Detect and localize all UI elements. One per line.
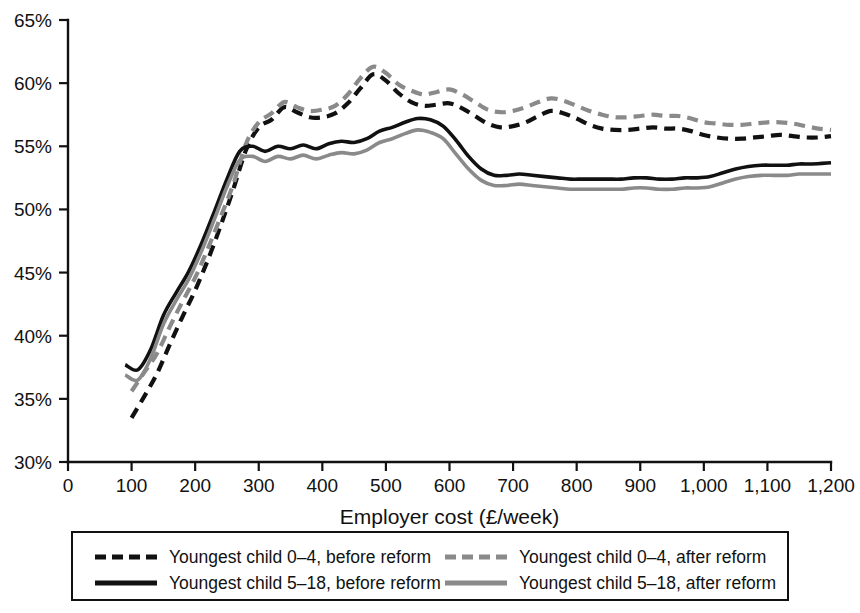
x-axis-title: Employer cost (£/week) <box>340 505 559 528</box>
legend-label: Youngest child 0–4, before reform <box>169 547 431 567</box>
axis-tick-marks <box>59 20 831 471</box>
legend-label: Youngest child 0–4, after reform <box>519 547 766 567</box>
x-tick-label: 1,200 <box>807 475 855 496</box>
data-series-group <box>125 67 831 418</box>
x-tick-label: 900 <box>624 475 656 496</box>
x-tick-label: 600 <box>434 475 466 496</box>
y-tick-label: 45% <box>14 263 52 284</box>
series-line-3 <box>125 118 831 370</box>
y-axis-tick-labels: 30%35%40%45%50%55%60%65% <box>14 10 52 473</box>
y-tick-label: 35% <box>14 389 52 410</box>
x-tick-label: 300 <box>243 475 275 496</box>
series-line-2 <box>132 67 831 392</box>
x-tick-label: 100 <box>116 475 148 496</box>
x-tick-label: 500 <box>370 475 402 496</box>
x-tick-label: 700 <box>497 475 529 496</box>
line-chart: 30%35%40%45%50%55%60%65% 010020030040050… <box>0 0 860 613</box>
x-tick-label: 400 <box>306 475 338 496</box>
x-axis-tick-labels: 01002003004005006007008009001,0001,1001,… <box>63 475 855 496</box>
y-tick-label: 65% <box>14 10 52 31</box>
x-tick-label: 0 <box>63 475 74 496</box>
legend-label: Youngest child 5–18, before reform <box>169 573 441 593</box>
x-tick-label: 200 <box>179 475 211 496</box>
y-tick-label: 60% <box>14 73 52 94</box>
chart-figure: 30%35%40%45%50%55%60%65% 010020030040050… <box>0 0 860 613</box>
x-tick-label: 800 <box>561 475 593 496</box>
y-tick-label: 55% <box>14 136 52 157</box>
y-tick-label: 30% <box>14 452 52 473</box>
legend-label: Youngest child 5–18, after reform <box>519 573 776 593</box>
x-tick-label: 1,000 <box>680 475 728 496</box>
y-tick-label: 50% <box>14 199 52 220</box>
y-tick-label: 40% <box>14 326 52 347</box>
x-tick-label: 1,100 <box>744 475 792 496</box>
